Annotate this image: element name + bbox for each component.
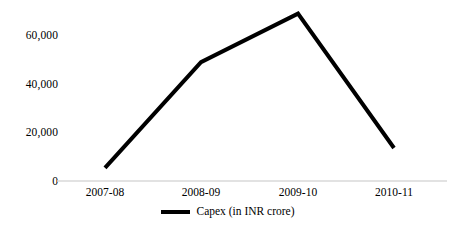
- x-axis-tick-label: 2007-08: [86, 186, 124, 199]
- x-axis-tick-label: 2010-11: [375, 186, 413, 199]
- capex-data-line: [105, 14, 394, 168]
- legend-line-marker-icon: [161, 210, 190, 214]
- line-chart: 60,000 40,000 20,000 0 2007-08 2008-09 2…: [0, 0, 456, 234]
- x-axis-tick-label: 2008-09: [182, 186, 220, 199]
- x-axis-tick-label: 2009-10: [279, 186, 317, 199]
- chart-legend: Capex (in INR crore): [0, 205, 456, 218]
- legend-entry-label: Capex (in INR crore): [196, 205, 294, 218]
